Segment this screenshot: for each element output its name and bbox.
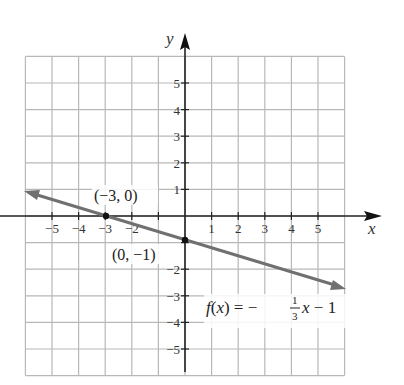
x-tick-label: −5 — [45, 221, 59, 236]
point-0-neg1 — [182, 237, 188, 243]
y-tick-label: −2 — [166, 262, 180, 277]
x-tick-label: 2 — [235, 221, 242, 236]
y-tick-label: 2 — [174, 156, 181, 171]
line-arrow-left-icon — [24, 190, 40, 200]
x-tick-label: 1 — [208, 221, 215, 236]
x-axis-label: x — [367, 219, 376, 238]
function-label: f(x) = − — [206, 298, 257, 317]
y-tick-label: 5 — [174, 76, 181, 91]
x-tick-label: 3 — [262, 221, 269, 236]
x-tick-label: 5 — [315, 221, 322, 236]
y-tick-label: 3 — [174, 129, 181, 144]
point-neg3-0 — [103, 213, 109, 219]
line-arrow-right-icon — [330, 280, 346, 290]
y-tick-label: −5 — [166, 342, 180, 357]
x-tick-label: −4 — [72, 221, 86, 236]
point-label-a: (−3, 0) — [94, 187, 138, 205]
fraction-denominator: 3 — [292, 310, 298, 322]
x-tick-label: 4 — [288, 221, 295, 236]
y-tick-label: −4 — [166, 315, 180, 330]
y-tick-label: −3 — [166, 289, 180, 304]
graph: −5−4−3−21234554321−2−3−4−5 x y (−3, 0) (… — [0, 0, 404, 385]
y-tick-label: 1 — [174, 182, 181, 197]
x-tick-label: −3 — [98, 221, 112, 236]
y-axis-label: y — [164, 29, 174, 48]
function-rhs: x − 1 — [301, 298, 336, 317]
fraction-numerator: 1 — [292, 294, 298, 306]
point-label-b: (0, −1) — [112, 246, 156, 264]
y-tick-label: 4 — [174, 103, 181, 118]
